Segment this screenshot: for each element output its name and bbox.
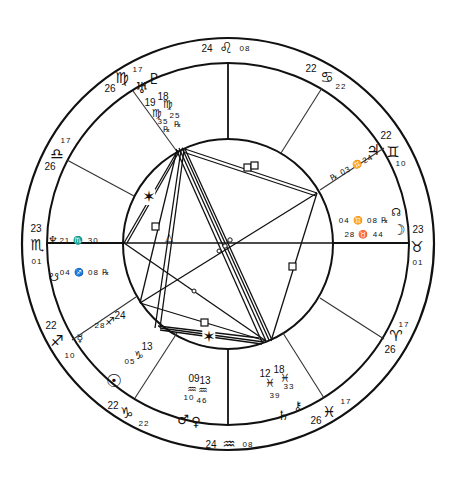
pisces-cusp-minute: 17 bbox=[341, 398, 352, 406]
mercury-icon: ☿ bbox=[77, 333, 84, 344]
uranus-retrograde: ℞ bbox=[163, 126, 171, 134]
mars-minute: 10 bbox=[184, 394, 195, 402]
pluto-retrograde: ℞ bbox=[174, 121, 182, 129]
aries-sign-icon: ♈ bbox=[389, 329, 402, 344]
virgo-sign-icon: ♍ bbox=[115, 71, 128, 86]
taurus-sign-icon: ♉ bbox=[410, 240, 423, 255]
neptune-icon: ♆ bbox=[48, 235, 58, 246]
saturn-minute: 39 bbox=[270, 392, 281, 400]
pluto-minute: 25 bbox=[170, 112, 181, 120]
leo-sign-icon: ♌ bbox=[219, 41, 232, 56]
chiron-icon: ⚷ bbox=[294, 400, 303, 412]
virgo-cusp-degree: 26 bbox=[104, 84, 115, 94]
virgo-cusp-minute: 17 bbox=[133, 66, 144, 74]
gemini-cusp-minute: 10 bbox=[396, 160, 407, 168]
mc-degree: 24 bbox=[201, 44, 212, 54]
mercury-degree: 24 bbox=[114, 311, 125, 321]
venus-icon: ♀ bbox=[191, 415, 201, 428]
asc-degree: 23 bbox=[30, 224, 41, 234]
asc-minute: 01 bbox=[32, 258, 43, 266]
gemini-cusp-degree: 22 bbox=[380, 131, 391, 141]
south-node-position: 04 ♐ 08 ℞ bbox=[60, 269, 110, 277]
ic-degree: 24 bbox=[205, 440, 216, 450]
pluto-icon: ♇ bbox=[147, 72, 160, 87]
sextile-aspect-icon: ✶ bbox=[142, 189, 155, 205]
sextile-aspect-icon: ✶ bbox=[202, 329, 215, 345]
north-node-icon: ☊ bbox=[391, 207, 401, 218]
moon-position: 28 ♉ 44 bbox=[344, 231, 383, 239]
saturn-icon: ♄ bbox=[277, 409, 289, 422]
center-conjunction-marks bbox=[192, 238, 232, 293]
venus-sign-icon: ♒ bbox=[198, 385, 208, 396]
cancer-cusp-minute: 22 bbox=[336, 83, 347, 91]
dsc-degree: 23 bbox=[412, 225, 423, 235]
sagittarius-sign-icon: ♐ bbox=[50, 334, 63, 349]
aries-cusp-degree: 26 bbox=[384, 345, 395, 355]
capricorn-cusp-minute: 22 bbox=[139, 420, 150, 428]
cancer-sign-icon: ♋ bbox=[320, 70, 333, 85]
scorpio-sign-icon: ♏ bbox=[30, 238, 43, 253]
libra-cusp-degree: 26 bbox=[44, 162, 55, 172]
sun-degree: 13 bbox=[141, 342, 152, 352]
north-node-position: 04 ♊ 08 ℞ bbox=[339, 217, 389, 225]
aspect-lines bbox=[123, 148, 333, 344]
capricorn-cusp-degree: 22 bbox=[107, 401, 118, 411]
south-node-icon: ☋ bbox=[49, 272, 59, 283]
ic-minute: 08 bbox=[243, 441, 254, 449]
sagittarius-cusp-minute: 10 bbox=[65, 352, 76, 360]
pisces-cusp-degree: 26 bbox=[310, 416, 321, 426]
mercury-minute: 28 bbox=[95, 322, 106, 330]
saturn-sign-icon: ♓ bbox=[265, 378, 275, 389]
sun-icon: ☉ bbox=[106, 372, 122, 390]
pluto-sign-icon: ♍ bbox=[163, 99, 173, 110]
libra-sign-icon: ♎ bbox=[50, 147, 63, 162]
venus-minute: 46 bbox=[197, 397, 208, 405]
neptune-position: 21 ♏ 30 bbox=[59, 237, 98, 245]
mars-icon: ♂ bbox=[177, 413, 189, 426]
moon-icon: ☽ bbox=[392, 223, 405, 238]
libra-cusp-minute: 17 bbox=[61, 137, 72, 145]
aquarius-sign-icon: ♒ bbox=[222, 437, 235, 452]
dsc-minute: 01 bbox=[413, 259, 424, 267]
trine-aspect-icon: △ bbox=[165, 233, 173, 243]
capricorn-sign-icon: ♑ bbox=[120, 406, 133, 421]
chiron-minute: 33 bbox=[284, 383, 295, 391]
mc-minute: 08 bbox=[240, 45, 251, 53]
gemini-sign-icon: ♊ bbox=[386, 145, 399, 160]
cancer-cusp-degree: 22 bbox=[305, 64, 316, 74]
sagittarius-cusp-degree: 22 bbox=[45, 321, 56, 331]
pisces-sign-icon: ♓ bbox=[322, 405, 335, 420]
